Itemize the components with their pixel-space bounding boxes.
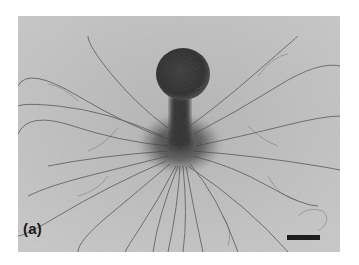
panel-label: (a) xyxy=(23,220,42,237)
micrograph-figure: (a) xyxy=(18,16,340,252)
scale-bar xyxy=(287,235,320,240)
micrograph-image xyxy=(18,16,340,252)
